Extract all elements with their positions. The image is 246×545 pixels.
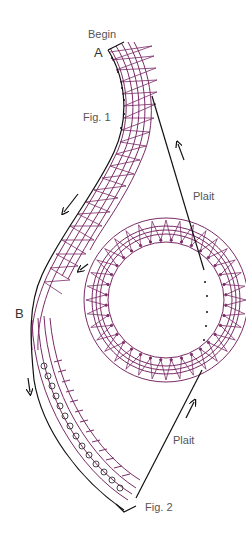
label-begin: Begin [88,28,116,40]
label-plait-top: Plait [193,190,214,202]
arrow-down-left-icon [64,194,78,212]
upper-braid-hatch [44,46,157,294]
label-point-a: A [94,45,103,60]
lace-diagram [0,0,246,545]
upper-braid [32,42,152,350]
arrow-small-icon [80,264,88,270]
arrow-down-icon [28,378,30,392]
lower-braid-circles [41,363,123,491]
arrow-up-icon [178,144,184,160]
label-plait-bottom: Plait [173,434,194,446]
label-point-b: B [15,306,24,321]
label-fig1: Fig. 1 [83,111,111,123]
label-fig2: Fig. 2 [145,501,173,513]
arrow-up-right-icon [186,402,194,418]
ring-spokes [86,220,246,380]
ring-braid [84,218,246,382]
